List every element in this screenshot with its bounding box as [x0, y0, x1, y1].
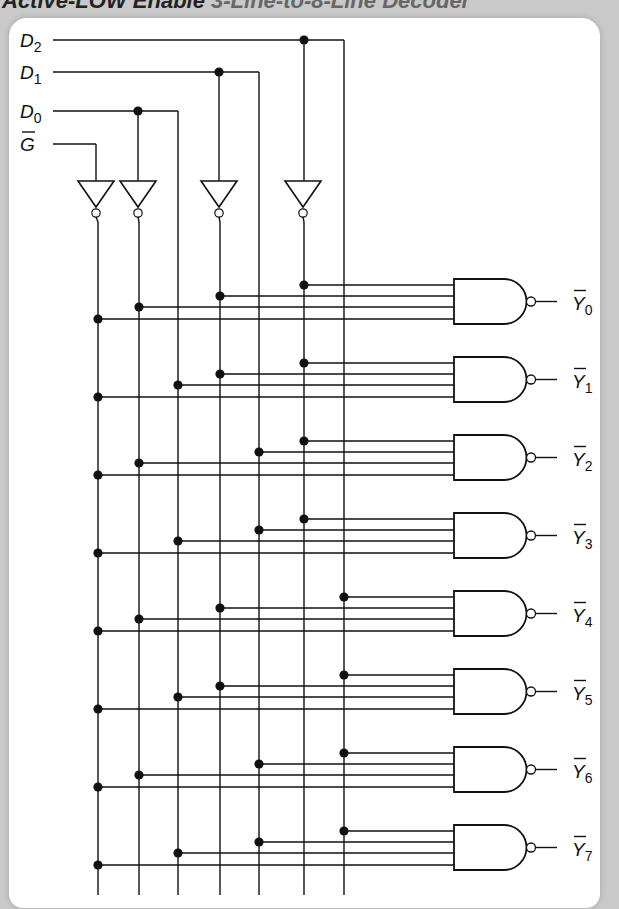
junction-dot — [173, 536, 182, 545]
output-label-Y7: Y7 — [572, 839, 593, 864]
junction-dot — [93, 626, 102, 635]
junction-dot — [93, 392, 102, 401]
nand-gate-Y7 — [454, 825, 527, 870]
junction-dot — [93, 548, 102, 557]
output-subscript: 4 — [585, 614, 593, 630]
D0-inverter-bubble — [134, 209, 142, 217]
output-bubble-Y0 — [527, 297, 536, 306]
rail-D2_inv-link — [303, 217, 304, 222]
junction-dot — [299, 358, 308, 367]
output-bubble-Y6 — [527, 765, 536, 774]
junction-dot — [339, 670, 348, 679]
output-subscript: 6 — [585, 770, 593, 786]
nand-gate-Y2 — [454, 435, 527, 480]
junction-dot — [299, 514, 308, 523]
junction-dot — [254, 837, 263, 846]
junction-dot — [215, 603, 224, 612]
output-bubble-Y1 — [527, 375, 536, 384]
junction-dot — [299, 280, 308, 289]
G-enable-inverter-triangle — [78, 181, 114, 207]
decoder-schematic: D2D1D0GY0Y1Y2Y3Y4Y5Y6Y7 — [0, 0, 619, 909]
input-label-G: G — [20, 134, 35, 155]
output-label-Y5: Y5 — [572, 683, 593, 708]
junction-dot — [299, 436, 308, 445]
output-bubble-Y3 — [527, 531, 536, 540]
junction-dot — [254, 447, 263, 456]
input-label-D0: D0 — [20, 101, 42, 126]
input-label-D2: D2 — [20, 30, 42, 55]
D2-inverter-bubble — [299, 209, 307, 217]
output-subscript: 1 — [585, 380, 593, 396]
junction-dot — [134, 614, 143, 623]
output-label-Y3: Y3 — [572, 527, 593, 552]
output-bubble-Y5 — [527, 687, 536, 696]
rail-D1_inv-link — [219, 217, 220, 222]
junction-dot — [173, 380, 182, 389]
output-bubble-Y7 — [527, 843, 536, 852]
nand-gate-Y6 — [454, 747, 527, 792]
output-label-Y2: Y2 — [572, 449, 593, 474]
output-subscript: 2 — [585, 458, 593, 474]
junction-dot — [134, 302, 143, 311]
junction-dot — [214, 67, 223, 76]
junction-dot — [215, 369, 224, 378]
nand-gate-Y4 — [454, 591, 527, 636]
rail-G_inv-link — [96, 217, 98, 222]
junction-dot — [299, 35, 308, 44]
junction-dot — [93, 470, 102, 479]
junction-dot — [173, 848, 182, 857]
input-subscript: 2 — [34, 39, 42, 55]
junction-dot — [254, 525, 263, 534]
output-label-Y4: Y4 — [572, 605, 593, 630]
rail-D0_inv-link — [138, 217, 139, 222]
junction-dot — [93, 704, 102, 713]
junction-dot — [339, 748, 348, 757]
output-label-Y0: Y0 — [572, 293, 593, 318]
nand-gate-Y5 — [454, 669, 527, 714]
output-label-Y6: Y6 — [572, 761, 593, 786]
input-label-D1: D1 — [20, 62, 42, 87]
G-enable-inverter-bubble — [92, 209, 100, 217]
junction-dot — [93, 782, 102, 791]
junction-dot — [173, 692, 182, 701]
output-label-Y1: Y1 — [572, 371, 593, 396]
junction-dot — [215, 681, 224, 690]
output-subscript: 0 — [585, 302, 593, 318]
D1-inverter-bubble — [215, 209, 223, 217]
D1-inverter-triangle — [201, 181, 237, 207]
output-bubble-Y2 — [527, 453, 536, 462]
junction-dot — [133, 106, 142, 115]
nand-gate-Y1 — [454, 357, 527, 402]
junction-dot — [339, 826, 348, 835]
input-subscript: 1 — [34, 71, 42, 87]
nand-gate-Y0 — [454, 279, 527, 324]
junction-dot — [339, 592, 348, 601]
junction-dot — [215, 291, 224, 300]
nand-gate-Y3 — [454, 513, 527, 558]
output-subscript: 5 — [585, 692, 593, 708]
junction-dot — [134, 770, 143, 779]
output-subscript: 7 — [585, 848, 593, 864]
junction-dot — [93, 860, 102, 869]
junction-dot — [93, 314, 102, 323]
output-subscript: 3 — [585, 536, 593, 552]
output-bubble-Y4 — [527, 609, 536, 618]
D0-inverter-triangle — [120, 181, 156, 207]
input-subscript: 0 — [34, 110, 42, 126]
junction-dot — [134, 458, 143, 467]
D2-inverter-triangle — [285, 181, 321, 207]
junction-dot — [254, 759, 263, 768]
